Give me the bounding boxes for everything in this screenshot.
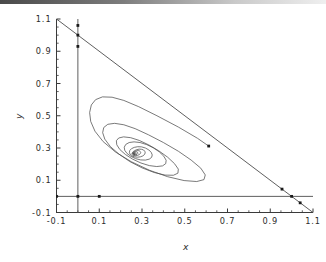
boundary-point-upper-a [76, 24, 79, 27]
boundary-point-x-axis [98, 195, 101, 198]
data-markers [55, 24, 301, 204]
series-lines [57, 19, 314, 213]
equilibrium-origin [76, 195, 79, 198]
axis-tick-labels: -0.10.10.30.50.70.91.1-0.10.10.30.50.70.… [32, 14, 321, 226]
x-tick-label: 0.7 [220, 216, 236, 226]
boundary-point-lower-left [55, 195, 58, 198]
boundary-point-diagonal-mid [207, 145, 210, 148]
boundary-point-diagonal-a [281, 188, 284, 191]
x-tick-label: 1.1 [305, 216, 321, 226]
y-tick-label: 1.1 [36, 14, 52, 24]
equilibrium-vertex-y [76, 34, 79, 37]
boundary-point-diagonal-b [299, 201, 302, 204]
y-tick-label: 0.3 [36, 143, 52, 153]
x-tick-label: 0.3 [134, 216, 150, 226]
x-axis-title: x [182, 241, 189, 252]
x-tick-label: 0.1 [91, 216, 107, 226]
inward-spiral-trajectory [90, 97, 209, 182]
x-tick-label: 0.9 [262, 216, 278, 226]
plot-data-area [55, 19, 313, 213]
boundary-point-upper-b [76, 45, 79, 48]
simplex-edge-diagonal [57, 19, 314, 213]
y-tick-label: 0.1 [36, 175, 52, 185]
y-tick-label: 0.7 [36, 79, 52, 89]
x-tick-label: 0.5 [177, 216, 193, 226]
y-tick-label: 0.5 [36, 111, 52, 121]
equilibrium-vertex-x [290, 195, 293, 198]
y-tick-label: 0.9 [36, 46, 52, 56]
y-tick-label: -0.1 [32, 208, 52, 218]
y-axis-title: y [13, 113, 24, 120]
figure-canvas: -0.10.10.30.50.70.91.1-0.10.10.30.50.70.… [0, 0, 326, 262]
phase-portrait-plot: -0.10.10.30.50.70.91.1-0.10.10.30.50.70.… [0, 0, 326, 262]
